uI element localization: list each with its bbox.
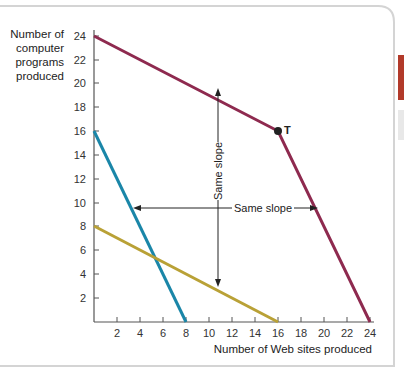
svg-text:8: 8 <box>80 220 86 232</box>
svg-text:6: 6 <box>80 244 86 256</box>
svg-text:24: 24 <box>74 30 86 42</box>
svg-text:20: 20 <box>318 327 330 339</box>
side-tab <box>398 110 404 140</box>
y-axis-label: Number of computer programs produced <box>8 27 64 83</box>
y-label-line: computer <box>8 41 64 55</box>
y-label-line: produced <box>8 69 64 83</box>
point-t-marker <box>274 127 282 135</box>
y-label-line: Number of <box>8 27 64 41</box>
svg-text:6: 6 <box>160 327 166 339</box>
side-tab-accent <box>398 55 404 100</box>
point-t-label: T <box>284 124 291 136</box>
y-label-line: programs <box>8 55 64 69</box>
svg-text:22: 22 <box>341 327 353 339</box>
svg-text:2: 2 <box>80 292 86 304</box>
svg-text:14: 14 <box>249 327 261 339</box>
svg-text:24: 24 <box>364 327 376 339</box>
svg-text:12: 12 <box>74 173 86 185</box>
chart-frame: 2 4 6 8 10 12 14 16 18 20 22 24 2 4 6 8 … <box>0 0 404 376</box>
svg-text:Same slope: Same slope <box>234 202 292 214</box>
svg-text:20: 20 <box>74 77 86 89</box>
svg-text:16: 16 <box>272 327 284 339</box>
svg-text:10: 10 <box>74 197 86 209</box>
svg-text:4: 4 <box>80 268 86 280</box>
svg-text:12: 12 <box>226 327 238 339</box>
x-axis-label: Number of Web sites produced <box>214 343 372 355</box>
svg-text:16: 16 <box>74 125 86 137</box>
svg-text:4: 4 <box>137 327 143 339</box>
svg-text:2: 2 <box>114 327 120 339</box>
svg-text:14: 14 <box>74 149 86 161</box>
svg-text:18: 18 <box>295 327 307 339</box>
svg-text:Same slope: Same slope <box>212 142 224 200</box>
svg-text:8: 8 <box>183 327 189 339</box>
svg-text:10: 10 <box>203 327 215 339</box>
svg-text:18: 18 <box>74 101 86 113</box>
svg-text:22: 22 <box>74 54 86 66</box>
